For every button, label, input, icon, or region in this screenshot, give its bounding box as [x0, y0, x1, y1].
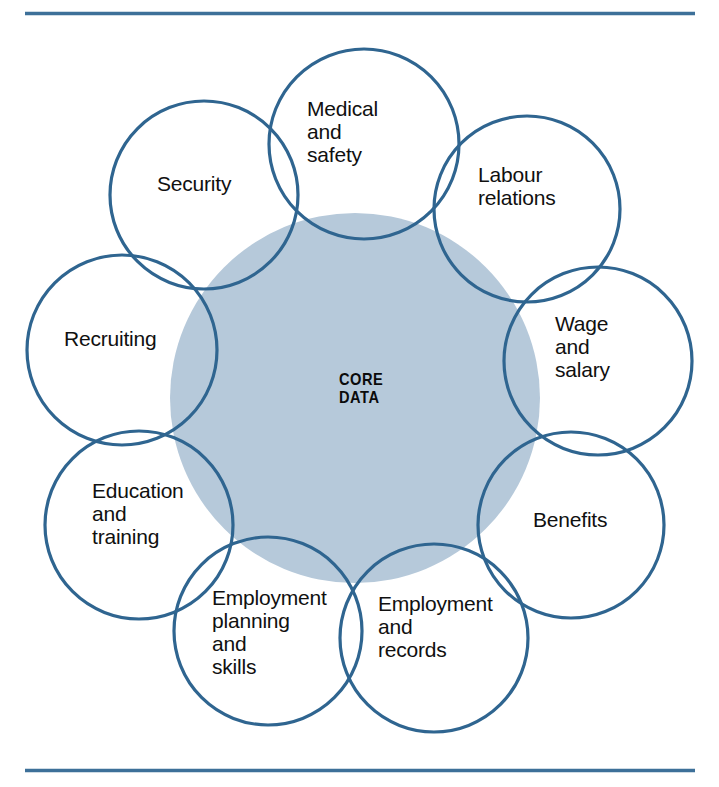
label-employment-planning-and-skills: Employment planning and skills	[212, 586, 327, 678]
label-education-and-training: Education and training	[92, 479, 184, 548]
core-data-label: CORE DATA	[339, 371, 383, 407]
circle-security[interactable]	[110, 101, 298, 289]
label-wage-and-salary: Wage and salary	[555, 312, 610, 381]
circle-labour-relations[interactable]	[434, 116, 620, 302]
label-security: Security	[157, 172, 231, 195]
core-data-diagram: Medical and safety Labour relations Wage…	[0, 0, 719, 787]
label-employment-and-records: Employment and records	[378, 592, 493, 661]
label-recruiting: Recruiting	[64, 327, 157, 350]
label-medical-and-safety: Medical and safety	[307, 97, 378, 166]
label-labour-relations: Labour relations	[478, 163, 556, 209]
label-benefits: Benefits	[533, 508, 607, 531]
